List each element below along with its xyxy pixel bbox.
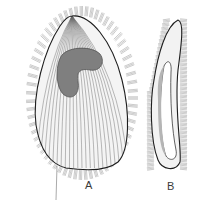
panel-label-b: B [167, 181, 174, 192]
ciliate-figure [0, 0, 198, 207]
panel-b-cell [147, 19, 187, 170]
panel-label-a: A [85, 180, 92, 191]
caudal-cilium [56, 166, 57, 200]
panel-a-cell [26, 6, 138, 200]
